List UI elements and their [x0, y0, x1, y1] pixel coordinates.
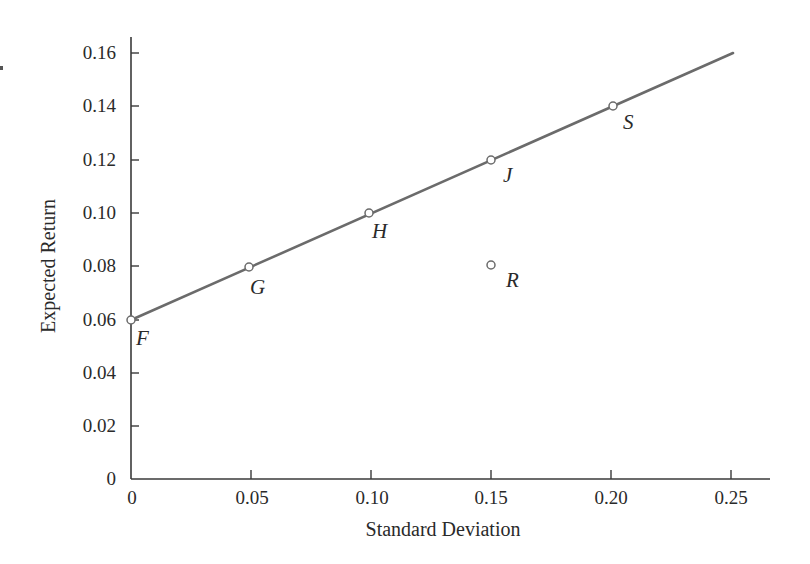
point-s-marker	[609, 102, 617, 110]
y-tick-label: 0.08	[83, 255, 116, 276]
y-tick-label: 0.02	[83, 415, 116, 436]
x-tick-label: 0	[127, 487, 137, 508]
x-tick-label: 0.20	[594, 487, 627, 508]
y-axis-title: Expected Return	[37, 199, 60, 333]
y-tick-label: 0.14	[83, 95, 117, 116]
point-f-marker	[127, 316, 135, 324]
point-label-h: H	[371, 219, 389, 243]
x-tick-label: 0.10	[355, 487, 388, 508]
x-ticks	[251, 470, 731, 479]
point-label-s: S	[623, 110, 634, 134]
y-tick-label: 0.12	[83, 149, 116, 170]
y-tick-label: 0.04	[83, 362, 117, 383]
point-label-g: G	[250, 275, 265, 299]
x-tick-label: 0.25	[714, 487, 747, 508]
x-tick-label: 0.15	[474, 487, 507, 508]
chart: 0 0.02 0.04 0.06 0.08 0.10 0.12 0.14 0.1…	[0, 0, 810, 564]
point-h-marker	[365, 209, 373, 217]
point-label-r: R	[505, 268, 519, 292]
point-g-marker	[245, 263, 253, 271]
x-tick-labels: 0 0.05 0.10 0.15 0.20 0.25	[127, 487, 747, 508]
axes	[131, 37, 770, 479]
point-label-j: J	[503, 163, 514, 187]
point-r-marker	[487, 261, 495, 269]
point-label-f: F	[135, 326, 149, 350]
x-tick-label: 0.05	[235, 487, 268, 508]
y-ticks	[131, 53, 139, 426]
point-labels: F G H J S R	[135, 110, 634, 350]
y-tick-labels: 0 0.02 0.04 0.06 0.08 0.10 0.12 0.14 0.1…	[83, 42, 117, 489]
x-axis-title: Standard Deviation	[366, 518, 521, 540]
y-tick-label: 0	[107, 468, 117, 489]
capital-allocation-line	[131, 53, 733, 320]
y-tick-label: 0.16	[83, 42, 116, 63]
y-tick-label: 0.06	[83, 309, 116, 330]
point-j-marker	[487, 156, 495, 164]
data-points	[127, 102, 617, 324]
y-tick-label: 0.10	[83, 202, 116, 223]
